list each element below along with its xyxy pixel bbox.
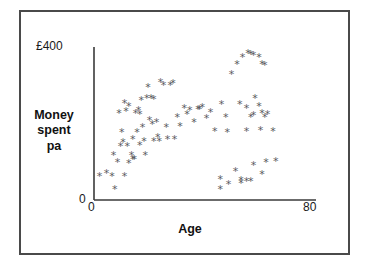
data-point-marker: *: [165, 133, 171, 144]
data-point-marker: *: [115, 156, 121, 167]
x-axis-zero-tick-label: 0: [88, 200, 95, 214]
data-point-marker: *: [141, 135, 147, 146]
data-point-marker: *: [177, 121, 183, 132]
data-point-marker: *: [97, 171, 103, 182]
data-point-marker: *: [224, 126, 230, 137]
data-point-marker: *: [109, 171, 115, 182]
data-point-marker: *: [122, 171, 128, 182]
data-point-marker: *: [258, 125, 264, 136]
plot-area: £400 0 0 80 Money spent pa Age *********…: [0, 0, 370, 273]
data-point-marker: *: [172, 133, 178, 144]
data-point-marker: *: [219, 98, 225, 109]
data-point-marker: *: [226, 178, 232, 189]
data-point-marker: *: [265, 108, 271, 119]
data-point-marker: *: [140, 122, 146, 133]
data-point-marker: *: [273, 156, 279, 167]
data-point-marker: *: [263, 156, 269, 167]
x-axis-max-tick-label: 80: [303, 200, 316, 214]
y-axis-max-tick-label: £400: [36, 39, 63, 53]
data-point-marker: *: [191, 116, 197, 127]
data-point-marker: *: [187, 105, 193, 116]
scatter-plot-figure: £400 0 0 80 Money spent pa Age *********…: [0, 0, 370, 273]
data-point-marker: *: [237, 99, 243, 110]
data-point-marker: *: [143, 149, 149, 160]
data-point-marker: *: [259, 169, 265, 180]
x-axis-title: Age: [150, 222, 230, 236]
data-point-marker: *: [212, 126, 218, 137]
data-point-marker: *: [126, 101, 132, 112]
data-point-marker: *: [270, 126, 276, 137]
y-axis-title-line-2: spent: [23, 123, 85, 138]
data-point-marker: *: [208, 107, 214, 118]
data-point-marker: *: [248, 175, 254, 186]
y-axis-title: Money spent pa: [23, 108, 85, 154]
data-point-marker: *: [218, 184, 224, 195]
data-point-marker: *: [161, 80, 167, 91]
data-point-marker: *: [223, 111, 229, 122]
y-axis-title-line-1: Money: [23, 108, 85, 123]
data-point-marker: *: [126, 158, 132, 169]
data-point-marker: *: [262, 60, 268, 71]
data-point-marker: *: [154, 116, 160, 127]
data-point-marker: *: [244, 126, 250, 137]
data-point-marker: *: [251, 159, 257, 170]
data-point-marker: *: [137, 108, 143, 119]
data-point-marker: *: [119, 126, 125, 137]
data-point-marker: *: [156, 135, 162, 146]
data-point-marker: *: [151, 93, 157, 104]
y-axis-zero-tick-label: 0: [79, 192, 86, 206]
y-axis-title-line-3: pa: [23, 139, 85, 154]
data-point-marker: *: [125, 141, 131, 152]
data-point-marker: *: [170, 78, 176, 89]
data-point-marker: *: [112, 183, 118, 194]
data-point-marker: *: [163, 122, 169, 133]
